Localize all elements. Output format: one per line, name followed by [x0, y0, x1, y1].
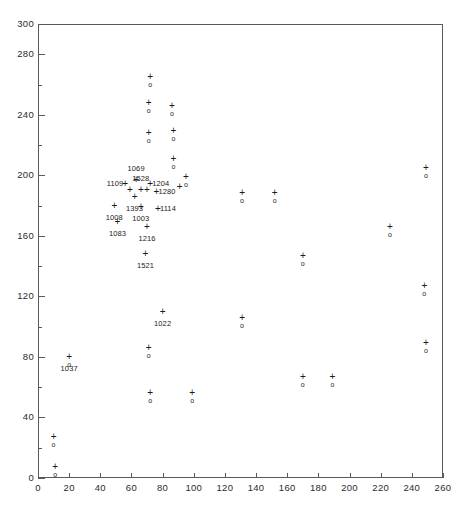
circle-marker-icon: o: [301, 380, 305, 387]
y-tick-label: 200: [4, 169, 34, 180]
point-label: 1037: [61, 365, 78, 373]
circle-marker-icon: o: [148, 397, 152, 404]
plus-marker-icon: +: [177, 182, 183, 192]
y-tick: [38, 175, 45, 176]
y-tick: [38, 266, 42, 267]
plus-marker-icon: +: [115, 217, 121, 227]
plus-marker-icon: +: [143, 249, 149, 259]
circle-marker-icon: o: [184, 180, 188, 187]
plus-marker-icon: +: [138, 185, 144, 195]
y-tick: [38, 115, 45, 116]
circle-marker-icon: o: [147, 136, 151, 143]
x-tick: [69, 473, 70, 478]
y-tick: [38, 417, 45, 418]
y-tick: [38, 206, 42, 207]
y-tick-label: 280: [4, 48, 34, 59]
y-tick: [38, 387, 42, 388]
y-tick: [38, 85, 42, 86]
y-tick: [38, 357, 45, 358]
x-tick: [256, 473, 257, 478]
plus-marker-icon: +: [160, 307, 166, 317]
x-tick: [38, 473, 39, 478]
circle-marker-icon: o: [301, 259, 305, 266]
circle-marker-icon: o: [52, 441, 56, 448]
point-label: 1083: [109, 230, 126, 238]
y-tick: [38, 448, 42, 449]
x-tick: [318, 473, 319, 478]
point-label: 1521: [137, 262, 154, 270]
circle-marker-icon: o: [330, 380, 334, 387]
circle-marker-icon: o: [422, 289, 426, 296]
x-tick: [350, 473, 351, 478]
y-tick: [38, 478, 45, 479]
point-label: 1109: [107, 180, 124, 188]
circle-marker-icon: o: [53, 471, 57, 478]
x-tick: [100, 473, 101, 478]
x-tick: [443, 473, 444, 478]
circle-marker-icon: o: [148, 80, 152, 87]
y-tick: [38, 327, 42, 328]
x-tick: [225, 473, 226, 478]
y-tick: [38, 145, 42, 146]
point-label: 1528: [132, 175, 149, 183]
y-tick: [38, 296, 45, 297]
scatter-plot: 04080120160200240280300 0204060801001201…: [0, 0, 467, 514]
circle-marker-icon: o: [388, 230, 392, 237]
plus-marker-icon: +: [127, 185, 133, 195]
point-label: 1216: [138, 235, 155, 243]
circle-marker-icon: o: [424, 347, 428, 354]
circle-marker-icon: o: [147, 106, 151, 113]
point-label: 1114: [160, 205, 176, 213]
x-tick: [194, 473, 195, 478]
y-tick-label: 120: [4, 290, 34, 301]
plus-marker-icon: +: [144, 185, 150, 195]
y-tick-label: 40: [4, 411, 34, 422]
point-label: 1069: [128, 165, 145, 173]
circle-marker-icon: o: [172, 162, 176, 169]
y-tick-label: 80: [4, 351, 34, 362]
circle-marker-icon: o: [240, 197, 244, 204]
y-tick: [38, 24, 45, 25]
y-tick: [38, 54, 45, 55]
point-label: 1022: [154, 320, 171, 328]
point-label: 1280: [158, 188, 175, 196]
plot-frame: [38, 24, 443, 478]
x-tick: [131, 473, 132, 478]
circle-marker-icon: o: [172, 135, 176, 142]
y-tick: [38, 236, 45, 237]
plus-marker-icon: +: [138, 202, 144, 212]
plus-marker-icon: +: [111, 201, 117, 211]
circle-marker-icon: o: [240, 321, 244, 328]
x-tick: [287, 473, 288, 478]
x-tick: [381, 473, 382, 478]
y-tick-label: 240: [4, 109, 34, 120]
circle-marker-icon: o: [273, 197, 277, 204]
x-tick: [163, 473, 164, 478]
y-tick-label: 160: [4, 230, 34, 241]
y-tick-label: 300: [4, 18, 34, 29]
x-tick-label: 260: [423, 482, 463, 493]
x-tick: [412, 473, 413, 478]
circle-marker-icon: o: [147, 351, 151, 358]
circle-marker-icon: o: [424, 171, 428, 178]
plus-marker-icon: +: [144, 222, 150, 232]
circle-marker-icon: o: [170, 109, 174, 116]
circle-marker-icon: o: [190, 397, 194, 404]
